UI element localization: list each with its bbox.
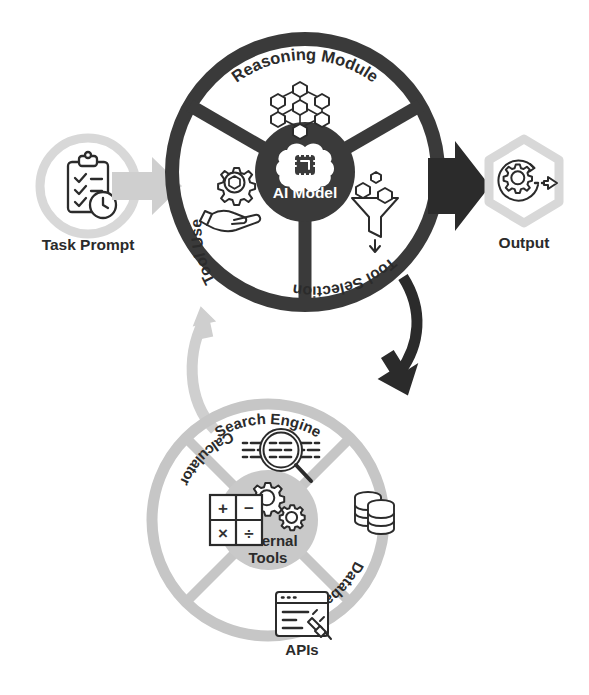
calc-key-plus: + xyxy=(218,499,228,518)
clipboard-checklist-clock-icon xyxy=(68,152,116,218)
agent-hub-label: AI Model xyxy=(273,184,338,201)
segment-label-apis: APIs xyxy=(285,641,318,658)
output-node[interactable]: Output xyxy=(489,139,559,251)
calc-key-divide: ÷ xyxy=(244,524,253,543)
calculator-operators-icon: + − × ÷ xyxy=(210,495,262,545)
agent-wheel: AI Model Reasoning Module xyxy=(172,39,438,305)
database-stack-icon xyxy=(355,492,394,534)
tools-hub-label-line2: Tools xyxy=(249,549,288,566)
funnel-cubes-icon xyxy=(352,172,398,252)
output-label: Output xyxy=(499,234,550,251)
tools-wheel: External Tools Search Engine xyxy=(152,404,394,658)
hand-gear-cube-icon xyxy=(200,168,260,231)
browser-plug-icon xyxy=(276,592,331,639)
input-label: Task Prompt xyxy=(42,236,135,253)
calc-key-minus: − xyxy=(244,499,254,518)
gear-refresh-arrow-icon xyxy=(498,161,557,201)
diagram-canvas: Task Prompt xyxy=(0,0,589,695)
calc-key-times: × xyxy=(218,524,228,543)
agent-to-tools-arrow xyxy=(369,277,430,404)
